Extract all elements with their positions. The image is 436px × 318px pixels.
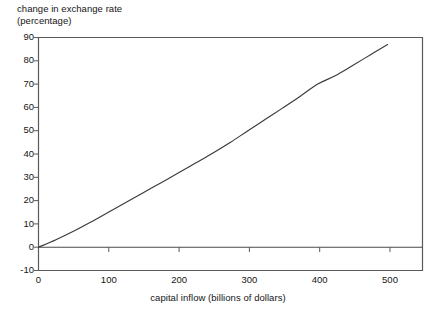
x-tick-label-200: 200 — [159, 274, 199, 285]
x-tick-label-100: 100 — [89, 274, 129, 285]
x-tick-label-300: 300 — [229, 274, 269, 285]
y-tick-label-20: 20 — [4, 194, 34, 205]
y-tick-label-0: 0 — [4, 241, 34, 252]
plot-area — [0, 0, 436, 318]
y-tick-label-90: 90 — [4, 31, 34, 42]
y-tick-label-30: 30 — [4, 171, 34, 182]
x-tick-label-500: 500 — [370, 274, 410, 285]
chart-container: change in exchange rate (percentage) — [0, 0, 436, 318]
y-tick-label-50: 50 — [4, 124, 34, 135]
y-tick-label-10: 10 — [4, 218, 34, 229]
x-axis-title: capital inflow (billions of dollars) — [0, 292, 436, 303]
axis-frame — [39, 38, 423, 271]
y-axis-ticks — [34, 38, 39, 271]
x-tick-label-0: 0 — [19, 274, 59, 285]
y-tick-label-80: 80 — [4, 54, 34, 65]
x-axis-ticks — [39, 247, 391, 252]
data-line-change-in-exchange-rate — [39, 44, 388, 247]
y-tick-label-60: 60 — [4, 101, 34, 112]
x-tick-label-400: 400 — [300, 274, 340, 285]
y-tick-label-40: 40 — [4, 148, 34, 159]
y-tick-label-70: 70 — [4, 78, 34, 89]
